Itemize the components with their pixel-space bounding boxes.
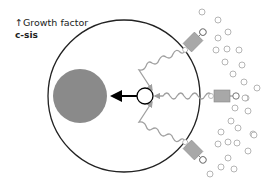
ligand-circle xyxy=(218,129,224,135)
ligand-circle xyxy=(215,141,221,147)
ligand-circle xyxy=(224,46,230,52)
ligand-circle xyxy=(218,164,224,170)
ligand-circle xyxy=(235,125,241,131)
ligand-circle xyxy=(254,85,260,91)
signal-pathway-middle xyxy=(155,93,212,99)
ligand-circle xyxy=(222,59,228,65)
ligand-circle xyxy=(234,140,240,146)
ligand-circle xyxy=(225,139,231,145)
signal-pathway-top xyxy=(139,50,186,90)
ligand-circle xyxy=(245,148,251,154)
ligand-circle xyxy=(215,35,221,41)
ligand-circle xyxy=(231,166,237,172)
ligand-circle xyxy=(225,155,231,161)
ligand-circle xyxy=(213,47,219,53)
receptor xyxy=(179,26,209,56)
ligand-circle xyxy=(242,95,248,101)
ligand-circle xyxy=(241,79,247,85)
ligand-circle xyxy=(232,105,238,111)
ligand-circle xyxy=(236,47,242,53)
ligand-circle xyxy=(228,118,234,124)
ligand-circle xyxy=(239,62,245,68)
receptor xyxy=(179,136,209,166)
receptors xyxy=(179,26,239,167)
ligand-circle xyxy=(207,171,213,177)
signal-pathway-bottom xyxy=(139,102,186,142)
receptor xyxy=(209,90,240,102)
ligand-circle xyxy=(215,17,221,23)
ligand-circle xyxy=(245,108,251,114)
ligand-circle xyxy=(199,9,205,15)
nucleus xyxy=(53,69,107,123)
signal-hub xyxy=(137,88,153,104)
ligand-circle xyxy=(225,29,231,35)
ligand-circle xyxy=(230,71,236,77)
signaling-diagram xyxy=(0,0,273,187)
ligand-circle xyxy=(251,132,257,138)
